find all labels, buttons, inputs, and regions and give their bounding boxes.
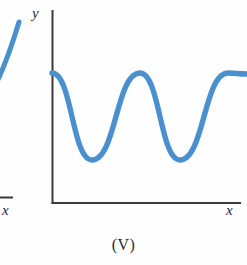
neighbor-x-axis-label: x	[2, 203, 9, 218]
periodic-wave-curve	[52, 73, 247, 160]
y-axis-label: y	[32, 6, 39, 21]
figure-graphic	[0, 0, 247, 265]
figure-caption: (V)	[0, 236, 247, 254]
x-axis-label: x	[226, 203, 233, 218]
neighbor-curve-fragment	[0, 22, 19, 88]
plot-axes	[52, 10, 242, 204]
neighbor-figure-fragment	[0, 22, 19, 198]
figure-container: y x x (V)	[0, 0, 247, 265]
